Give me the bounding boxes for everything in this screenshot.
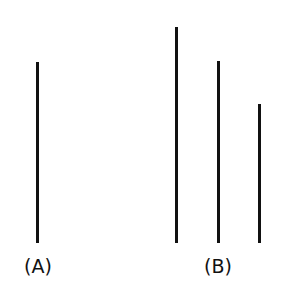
diagram-canvas: (A) (B) <box>0 0 290 290</box>
label-b: (B) <box>204 255 232 277</box>
line-b1 <box>175 27 178 243</box>
line-b3 <box>258 104 261 243</box>
label-a: (A) <box>24 255 52 277</box>
line-b2 <box>217 61 220 243</box>
line-a <box>36 62 39 243</box>
